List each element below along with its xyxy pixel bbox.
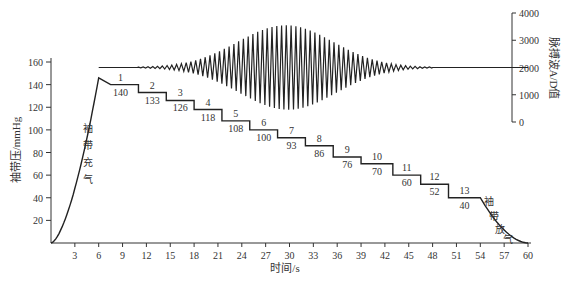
x-tick-label: 57 bbox=[499, 250, 509, 261]
y-tick-label: 40 bbox=[33, 193, 43, 204]
x-tick-label: 12 bbox=[141, 250, 151, 261]
x-tick-label: 24 bbox=[237, 250, 247, 261]
step-index: 10 bbox=[372, 151, 382, 162]
x-tick-label: 33 bbox=[308, 250, 318, 261]
y-tick-label: 60 bbox=[33, 170, 43, 181]
x-ticks: 3691215182124273033363942454851545760 bbox=[72, 243, 533, 261]
step-pressure: 118 bbox=[201, 112, 216, 123]
x-tick-label: 42 bbox=[380, 250, 390, 261]
step-index: 9 bbox=[345, 144, 350, 155]
step-pressure: 86 bbox=[314, 148, 324, 159]
deflate-annotation-char: 气 bbox=[503, 233, 513, 245]
y2-tick-label: 0 bbox=[519, 117, 524, 128]
deflate-annotation-char: 带 bbox=[489, 211, 499, 222]
step-index: 13 bbox=[459, 185, 469, 196]
y-tick-label: 80 bbox=[33, 148, 43, 159]
x-tick-label: 15 bbox=[165, 250, 175, 261]
step-index: 11 bbox=[402, 162, 412, 173]
step-pressure: 76 bbox=[342, 159, 352, 170]
step-index: 6 bbox=[261, 117, 266, 128]
step-index: 12 bbox=[430, 171, 440, 182]
x-axis-label: 时间/s bbox=[270, 262, 299, 274]
x-tick-label: 21 bbox=[213, 250, 223, 261]
x-tick-label: 54 bbox=[475, 250, 485, 261]
step-pressure: 52 bbox=[430, 186, 440, 197]
y-tick-label: 120 bbox=[28, 102, 43, 113]
x-tick-label: 60 bbox=[523, 250, 533, 261]
step-pressure: 100 bbox=[256, 132, 271, 143]
x-tick-label: 39 bbox=[356, 250, 366, 261]
y2-tick-label: 1000 bbox=[519, 90, 539, 101]
step-pressure: 40 bbox=[459, 200, 469, 211]
x-tick-label: 27 bbox=[261, 250, 271, 261]
step-pressure: 93 bbox=[286, 140, 296, 151]
x-tick-label: 6 bbox=[96, 250, 101, 261]
inflate-annotation-char: 气 bbox=[83, 173, 93, 185]
step-pressure: 60 bbox=[402, 177, 412, 188]
inflate-annotation-char: 带 bbox=[83, 140, 93, 151]
step-index: 2 bbox=[150, 80, 155, 91]
step-pressure: 70 bbox=[372, 166, 382, 177]
blood-pressure-chart: 20406080100120140160 3691215182124273033… bbox=[0, 0, 563, 287]
y-tick-label: 100 bbox=[28, 125, 43, 136]
step-index: 5 bbox=[233, 108, 238, 119]
y2-axis-label: 脉搏波A/D值 bbox=[548, 37, 561, 100]
step-pressure: 140 bbox=[113, 87, 128, 98]
y-tick-label: 20 bbox=[33, 215, 43, 226]
step-index: 3 bbox=[178, 87, 183, 98]
x-tick-label: 30 bbox=[285, 250, 295, 261]
y2-tick-label: 3000 bbox=[519, 35, 539, 46]
inflate-annotation-char: 袖 bbox=[83, 122, 93, 134]
y-tick-label: 160 bbox=[28, 57, 43, 68]
step-index: 1 bbox=[118, 72, 123, 83]
x-tick-label: 48 bbox=[428, 250, 438, 261]
x-tick-label: 9 bbox=[120, 250, 125, 261]
x-tick-label: 3 bbox=[72, 250, 77, 261]
x-tick-label: 18 bbox=[189, 250, 199, 261]
y-tick-label: 140 bbox=[28, 80, 43, 91]
step-index: 8 bbox=[317, 133, 322, 144]
step-pressure: 108 bbox=[228, 123, 243, 134]
x-tick-label: 51 bbox=[451, 250, 461, 261]
step-pressure: 126 bbox=[173, 102, 188, 113]
step-pressure: 133 bbox=[145, 95, 160, 106]
x-tick-label: 36 bbox=[332, 250, 342, 261]
left-y-ticks: 20406080100120140160 bbox=[28, 57, 51, 226]
pulse-wave-series bbox=[99, 25, 528, 109]
step-index: 4 bbox=[206, 97, 211, 108]
inflate-annotation-char: 充 bbox=[83, 156, 93, 168]
y2-tick-label: 4000 bbox=[519, 8, 539, 19]
deflate-annotation-char: 袖 bbox=[484, 195, 494, 207]
step-index: 7 bbox=[289, 125, 294, 136]
y-axis-label: 袖带压/mmHg bbox=[9, 116, 22, 183]
x-tick-label: 45 bbox=[404, 250, 414, 261]
